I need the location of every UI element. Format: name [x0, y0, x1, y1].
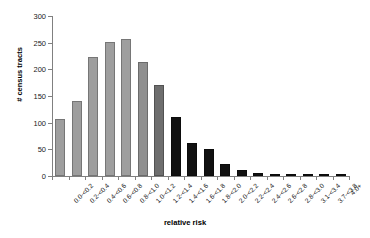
- bar: [171, 117, 181, 176]
- x-axis-tick: [168, 176, 169, 180]
- x-axis-tick: [69, 176, 70, 180]
- x-axis-tick: [52, 176, 53, 180]
- y-axis-tick-label: 200: [2, 66, 46, 74]
- x-axis-tick: [283, 176, 284, 180]
- x-axis-tick: [184, 176, 185, 180]
- x-axis-tick: [333, 176, 334, 180]
- bar: [204, 149, 214, 176]
- bar: [55, 119, 65, 176]
- y-axis-tick-label: 100: [2, 119, 46, 127]
- x-axis-tick: [349, 176, 350, 180]
- y-axis-tick-label: 150: [2, 93, 46, 101]
- y-axis-tick-label: 0: [2, 173, 46, 181]
- bar: [220, 164, 230, 176]
- x-axis-tick: [102, 176, 103, 180]
- bar: [105, 42, 115, 176]
- x-axis-tick: [250, 176, 251, 180]
- bar: [187, 143, 197, 176]
- x-axis-tick: [151, 176, 152, 180]
- x-axis-tick: [85, 176, 86, 180]
- y-axis-tick-label: 50: [2, 146, 46, 154]
- x-axis-tick: [217, 176, 218, 180]
- x-axis-tick: [300, 176, 301, 180]
- bar: [121, 39, 131, 176]
- x-axis-tick: [118, 176, 119, 180]
- x-axis-tick: [135, 176, 136, 180]
- x-axis-tick: [267, 176, 268, 180]
- bar-chart: # census tracts 050100150200250300 0.0-<…: [0, 0, 370, 238]
- x-axis-tick: [316, 176, 317, 180]
- bar-series: [52, 16, 349, 176]
- bar: [154, 85, 164, 176]
- x-axis-tick: [234, 176, 235, 180]
- y-axis-tick-label: 250: [2, 39, 46, 47]
- bar: [88, 57, 98, 176]
- bar: [72, 101, 82, 176]
- y-axis-tick-label: 300: [2, 13, 46, 21]
- x-axis-tick: [201, 176, 202, 180]
- x-axis-title: relative risk: [0, 218, 370, 227]
- bar: [138, 62, 148, 176]
